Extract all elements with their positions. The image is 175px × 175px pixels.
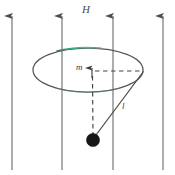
- orbit-ellipse-group: [33, 48, 143, 93]
- orbit-ellipse: [33, 48, 143, 92]
- field-line-group: [12, 16, 163, 170]
- physics-figure: H m l: [0, 0, 175, 175]
- pendulum-bob: [86, 133, 99, 146]
- axis-dashed-line: [93, 76, 94, 134]
- mass-label-m: m: [76, 63, 83, 72]
- pendulum-string: [93, 72, 144, 140]
- figure-canvas: [0, 0, 175, 175]
- field-label-H: H: [82, 4, 90, 15]
- length-label-l: l: [122, 102, 125, 111]
